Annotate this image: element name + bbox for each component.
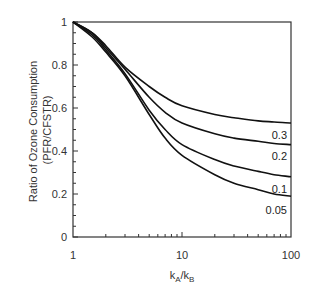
plot-frame bbox=[73, 22, 291, 237]
curve-0-2 bbox=[73, 22, 291, 145]
curve-label: 0.05 bbox=[266, 204, 287, 216]
y-axis-title-line1: Ratio of Ozone Consumption bbox=[27, 61, 39, 202]
data-curves bbox=[73, 22, 291, 196]
y-tick-label: 0.4 bbox=[52, 145, 67, 157]
curve-labels: 0.30.20.10.05 bbox=[266, 129, 287, 216]
x-title-sub-b: B bbox=[189, 275, 194, 284]
x-tick-label: 10 bbox=[176, 249, 188, 261]
curve-label: 0.2 bbox=[272, 150, 287, 162]
y-tick-label: 0 bbox=[61, 231, 67, 243]
curve-0-3 bbox=[73, 22, 291, 123]
x-axis-tick-labels: 110100 bbox=[70, 249, 300, 261]
y-axis-title: Ratio of Ozone Consumption (PFR/CFSTR) bbox=[27, 58, 53, 202]
y-tick-label: 0.2 bbox=[52, 188, 67, 200]
line-chart: 00.20.40.60.81 110100 0.30.20.10.05 Rati… bbox=[0, 0, 316, 299]
curve-label: 0.1 bbox=[272, 183, 287, 195]
y-tick-label: 1 bbox=[61, 16, 67, 28]
plot-border bbox=[73, 22, 291, 237]
curve-label: 0.3 bbox=[272, 129, 287, 141]
y-tick-label: 0.6 bbox=[52, 102, 67, 114]
y-axis-tick-labels: 00.20.40.60.81 bbox=[52, 16, 67, 243]
y-tick-label: 0.8 bbox=[52, 59, 67, 71]
x-tick-label: 100 bbox=[282, 249, 300, 261]
x-tick-label: 1 bbox=[70, 249, 76, 261]
minor-ticks bbox=[73, 22, 286, 237]
x-axis-title: kA/kB bbox=[170, 269, 195, 284]
y-axis-title-line2: (PFR/CFSTR) bbox=[41, 95, 53, 164]
